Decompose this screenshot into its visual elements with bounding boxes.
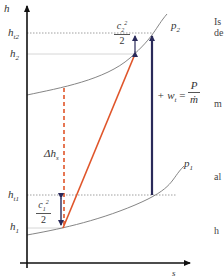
label-h-2: h2	[10, 48, 19, 62]
isobar-p2	[27, 14, 167, 95]
label-h-t1: ht1	[8, 189, 19, 203]
label-p2: p2	[171, 20, 180, 34]
side-text-line-2: de	[214, 28, 223, 38]
side-text-line-3: m	[214, 99, 222, 109]
work-label: + wt =	[157, 90, 185, 104]
work-fraction: P ṁ	[188, 80, 200, 105]
s-axis-label: s	[172, 269, 176, 278]
label-p1: p1	[184, 158, 193, 172]
label-h-1: h1	[10, 221, 19, 235]
side-text-line-1: Is	[214, 17, 221, 27]
kinetic-energy-1-label: c12 2	[36, 199, 51, 225]
side-text-line-4: al	[214, 172, 221, 182]
hs-diagram	[0, 0, 224, 280]
kinetic-energy-2-label: c22 2	[114, 20, 130, 46]
side-text-line-5: h	[214, 226, 219, 236]
delta-hs-label: Δhs	[44, 148, 59, 162]
label-h-t2: ht2	[8, 27, 19, 41]
process-line-1-2	[63, 54, 135, 228]
h-axis-label: h	[4, 3, 10, 14]
